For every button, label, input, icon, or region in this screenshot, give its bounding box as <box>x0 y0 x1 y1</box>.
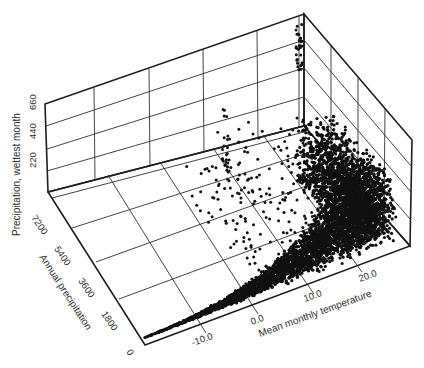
y-tick-0: 0 <box>124 347 136 358</box>
z-axis-label: Precipitation, wettest month <box>11 113 22 236</box>
back-wall-left <box>45 14 304 192</box>
scatter-3d-chart: 220 440 660 Precipitation, wettest month… <box>0 0 424 368</box>
y-tick-3600: 3600 <box>76 276 97 300</box>
x-tick-neg10: -10.0 <box>190 330 214 348</box>
z-tick-220: 220 <box>27 152 38 168</box>
z-axis-ticks: 220 440 660 <box>27 94 38 168</box>
y-axis-ticks: 7200 5400 3600 1800 0 <box>29 213 136 358</box>
z-tick-440: 440 <box>27 123 38 139</box>
y-tick-7200: 7200 <box>29 213 50 237</box>
x-tick-10: 10.0 <box>302 287 323 304</box>
y-tick-5400: 5400 <box>52 244 73 268</box>
x-tick-0: 0.0 <box>249 312 265 327</box>
y-tick-1800: 1800 <box>99 309 120 333</box>
z-tick-660: 660 <box>27 94 38 110</box>
